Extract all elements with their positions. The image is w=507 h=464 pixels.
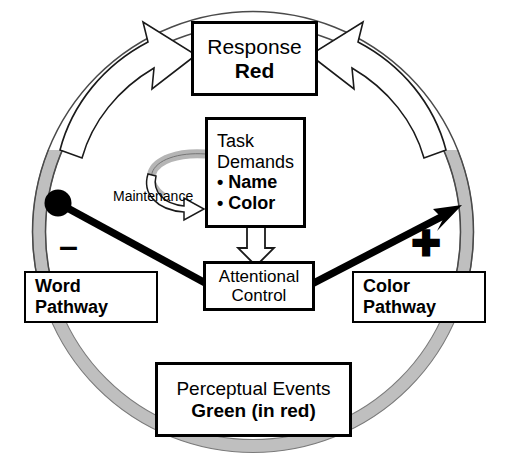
node-attentional-control[interactable]: Attentional Control <box>203 261 315 311</box>
word-pathway-line1: Word <box>35 276 81 297</box>
perceptual-events-value: Green (in red) <box>191 400 316 422</box>
maintenance-loop-arrow <box>147 154 206 220</box>
color-pathway-line1: Color <box>363 276 410 297</box>
perceptual-events-label: Perceptual Events <box>176 378 330 400</box>
response-value: Red <box>235 59 275 83</box>
color-pathway-response-arrow <box>310 22 446 158</box>
task-demands-bullet-name-text: Name <box>228 172 277 192</box>
task-demands-bullet-name: • Name <box>217 172 277 193</box>
task-demands-down-arrow <box>238 226 274 266</box>
color-pathway-line2: Pathway <box>363 297 436 318</box>
node-perceptual-events[interactable]: Perceptual Events Green (in red) <box>155 362 352 437</box>
maintenance-label: Maintenance <box>113 188 193 204</box>
attentional-control-line1: Attentional <box>219 267 299 286</box>
task-demands-bullet-color-text: Color <box>228 193 275 213</box>
plus-sign-icon: ✚ <box>411 226 441 262</box>
attentional-control-line2: Control <box>232 286 287 305</box>
minus-sign-icon: – <box>59 228 78 262</box>
word-pathway-line2: Pathway <box>35 297 108 318</box>
diagram-canvas: Response Red Task Demands • Name • Color… <box>0 0 507 464</box>
task-demands-label-line2: Demands <box>217 152 294 173</box>
bullet-glyph-icon: • <box>217 172 223 192</box>
node-color-pathway[interactable]: Color Pathway <box>352 271 486 323</box>
node-response[interactable]: Response Red <box>191 21 318 96</box>
task-demands-label-line1: Task <box>217 131 254 152</box>
node-word-pathway[interactable]: Word Pathway <box>24 271 158 323</box>
node-task-demands[interactable]: Task Demands • Name • Color <box>205 117 306 228</box>
task-demands-bullet-color: • Color <box>217 193 275 214</box>
word-pathway-response-arrow <box>60 22 196 158</box>
response-label: Response <box>207 35 302 59</box>
bullet-glyph-icon: • <box>217 193 223 213</box>
